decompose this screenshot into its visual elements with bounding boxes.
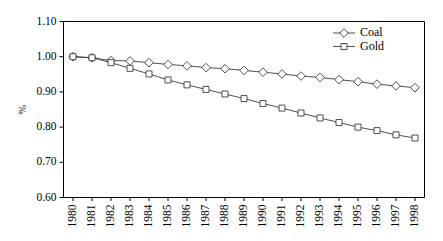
data-point-gold-1986 bbox=[184, 82, 190, 88]
data-point-coal-1989 bbox=[240, 66, 249, 75]
data-point-gold-1996 bbox=[374, 128, 380, 134]
x-axis-tick-label: 1997 bbox=[389, 204, 401, 227]
y-axis-tick-label: 1.10 bbox=[36, 15, 56, 27]
data-point-coal-1986 bbox=[183, 62, 192, 71]
data-point-coal-1992 bbox=[297, 72, 306, 81]
data-point-coal-1984 bbox=[145, 58, 154, 67]
data-point-coal-1985 bbox=[164, 60, 173, 69]
y-axis-tick-label: 0.60 bbox=[36, 191, 56, 203]
legend-item-coal: Coal bbox=[333, 25, 383, 39]
data-point-coal-1994 bbox=[335, 75, 344, 84]
data-point-gold-1981 bbox=[89, 55, 95, 61]
x-axis-tick-label: 1988 bbox=[218, 204, 230, 227]
x-axis-tick-label: 1986 bbox=[180, 204, 192, 227]
data-point-coal-1990 bbox=[259, 68, 268, 77]
x-axis-tick-label: 1992 bbox=[294, 204, 306, 227]
y-axis-tick-label: 0.90 bbox=[36, 85, 56, 97]
y-axis-label: % bbox=[16, 105, 28, 114]
legend-item-gold: Gold bbox=[333, 39, 384, 53]
data-point-gold-1987 bbox=[203, 86, 209, 92]
data-point-coal-1995 bbox=[354, 77, 363, 86]
series-coal bbox=[69, 52, 420, 92]
data-point-gold-1982 bbox=[108, 60, 114, 66]
legend-label: Gold bbox=[360, 39, 384, 53]
x-axis-tick-label: 1981 bbox=[85, 204, 97, 227]
data-point-gold-1997 bbox=[393, 132, 399, 138]
x-axis-tick-label: 1994 bbox=[332, 204, 344, 227]
data-point-gold-1988 bbox=[222, 91, 228, 97]
x-axis-tick-label: 1991 bbox=[275, 204, 287, 227]
data-point-gold-1985 bbox=[165, 77, 171, 83]
x-axis-tick-label: 1993 bbox=[313, 204, 325, 227]
y-axis-tick-label: 0.80 bbox=[36, 120, 56, 132]
x-axis-tick-label: 1995 bbox=[351, 204, 363, 227]
data-point-gold-1993 bbox=[317, 115, 323, 121]
data-point-gold-1995 bbox=[355, 124, 361, 130]
data-point-gold-1980 bbox=[70, 54, 76, 60]
data-point-gold-1983 bbox=[127, 65, 133, 71]
data-point-gold-1989 bbox=[241, 96, 247, 102]
y-axis-tick-label: 0.70 bbox=[36, 155, 56, 167]
data-point-gold-1991 bbox=[279, 105, 285, 111]
legend-label: Coal bbox=[360, 25, 383, 39]
data-point-coal-1988 bbox=[221, 64, 230, 73]
data-point-coal-1996 bbox=[373, 80, 382, 89]
x-axis-tick-label: 1985 bbox=[161, 204, 173, 227]
data-point-coal-1993 bbox=[316, 73, 325, 82]
data-point-coal-1987 bbox=[202, 63, 211, 72]
data-point-gold-1998 bbox=[412, 135, 418, 141]
x-axis-tick-label: 1984 bbox=[142, 204, 154, 227]
x-axis-tick-label: 1989 bbox=[237, 204, 249, 227]
x-axis-tick-label: 1980 bbox=[66, 204, 78, 227]
data-point-coal-1991 bbox=[278, 70, 287, 79]
data-point-gold-1990 bbox=[260, 101, 266, 107]
data-point-gold-1994 bbox=[336, 120, 342, 126]
data-point-coal-1983 bbox=[126, 57, 135, 66]
x-axis-tick-label: 1982 bbox=[104, 204, 116, 227]
data-point-gold-1984 bbox=[146, 71, 152, 77]
x-axis-tick-label: 1983 bbox=[123, 204, 135, 227]
legend-marker-square bbox=[341, 44, 347, 50]
data-point-gold-1992 bbox=[298, 110, 304, 116]
chart-container: 0.600.700.800.901.001.10%198019811982198… bbox=[0, 0, 443, 241]
x-axis-tick-label: 1996 bbox=[370, 204, 382, 227]
y-axis-tick-label: 1.00 bbox=[36, 50, 56, 62]
line-chart: 0.600.700.800.901.001.10%198019811982198… bbox=[0, 0, 443, 241]
x-axis-tick-label: 1990 bbox=[256, 204, 268, 227]
legend-marker-diamond bbox=[340, 29, 349, 38]
x-axis-tick-label: 1998 bbox=[408, 204, 420, 227]
data-point-coal-1998 bbox=[411, 83, 420, 92]
data-point-coal-1997 bbox=[392, 82, 401, 91]
x-axis-tick-label: 1987 bbox=[199, 204, 211, 227]
